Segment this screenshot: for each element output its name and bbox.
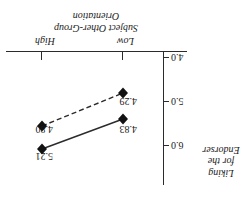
data-label-5-21: 5.21 bbox=[36, 151, 54, 162]
series-solid-line bbox=[42, 119, 123, 149]
series-dashed-line bbox=[42, 93, 123, 126]
line-chart: High Low 4.0 5.0 6.0 Subject Other-Group… bbox=[0, 0, 249, 197]
figure-rotator: High Low 4.0 5.0 6.0 Subject Other-Group… bbox=[0, 0, 249, 197]
data-label-4-29: 4.29 bbox=[120, 96, 138, 107]
data-label-4-83: 4.83 bbox=[120, 124, 138, 135]
data-label-4-80: 4.80 bbox=[36, 124, 54, 135]
marker-diamond-4-83 bbox=[118, 114, 128, 125]
